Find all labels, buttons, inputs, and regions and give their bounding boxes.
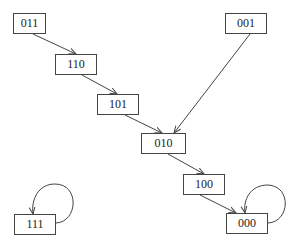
- edges-layer: [0, 0, 301, 247]
- edge-010-100: [168, 154, 204, 174]
- edge-101-010: [125, 115, 162, 133]
- edge-100-000: [200, 195, 236, 213]
- node-000: 000: [226, 213, 268, 234]
- node-001: 001: [225, 13, 267, 34]
- node-110: 110: [55, 54, 97, 75]
- edge-001-010: [174, 34, 250, 133]
- node-100: 100: [183, 174, 225, 195]
- edge-110-101: [82, 75, 117, 94]
- node-010: 010: [141, 133, 186, 154]
- edge-011-110: [33, 34, 76, 54]
- node-101: 101: [97, 94, 139, 115]
- node-011: 011: [13, 13, 46, 34]
- node-111: 111: [14, 214, 56, 235]
